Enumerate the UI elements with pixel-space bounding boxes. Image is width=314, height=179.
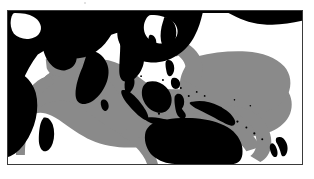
island-dot [211,113,213,115]
island-dot [174,121,176,123]
island-dot [236,120,238,122]
distribution-map-figure [0,0,314,179]
island-dot [234,99,236,101]
island-dot [158,113,160,115]
island-dot [250,105,252,107]
island-dot [152,101,154,103]
island-dot [188,95,190,97]
page-speck [84,2,86,4]
map-canvas [8,11,302,164]
island-dot [245,126,247,128]
island-dot [162,79,164,81]
island-dot [196,91,198,93]
island-dot [204,95,206,97]
map-frame [7,10,303,165]
island-dot [261,138,263,140]
island-dot [166,105,168,107]
island-dot [229,115,231,117]
island-dot [180,87,182,89]
island-dot [184,123,186,125]
island-dot [140,75,142,77]
island-dot [192,119,194,121]
island-dot [253,132,255,134]
island-dot [219,107,221,109]
island-dot [201,109,203,111]
island-dot [218,129,220,131]
